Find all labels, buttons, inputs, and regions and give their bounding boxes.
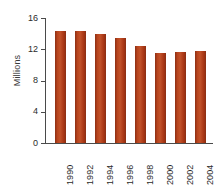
bar-1996 [115,38,126,143]
plot-area [45,14,211,143]
bar-2002 [175,52,186,143]
bar-1992 [75,31,86,144]
y-tick-label: 0 [14,139,38,148]
y-tick-mark [41,143,46,144]
y-tick-label: 16 [14,14,38,23]
bar-2004 [195,51,206,143]
x-tick-label: 2004 [205,145,214,185]
x-tick-label: 1994 [105,145,116,185]
bar-1990 [55,31,66,144]
bar-chart-figure: Millions 0481216 19901992199419961998200… [0,0,214,185]
x-tick-label: 1990 [65,145,76,185]
y-tick-label: 4 [14,107,38,116]
bar-2000 [155,53,166,143]
x-tick-label: 2002 [185,145,196,185]
bar-1998 [135,46,146,143]
x-tick-label: 1996 [125,145,136,185]
y-tick-label: 12 [14,45,38,54]
x-tick-label: 2000 [165,145,176,185]
x-tick-label: 1992 [85,145,96,185]
x-axis-line [41,143,213,144]
bar-1994 [95,34,106,143]
x-tick-label: 1998 [145,145,156,185]
y-tick-label: 8 [14,76,38,85]
